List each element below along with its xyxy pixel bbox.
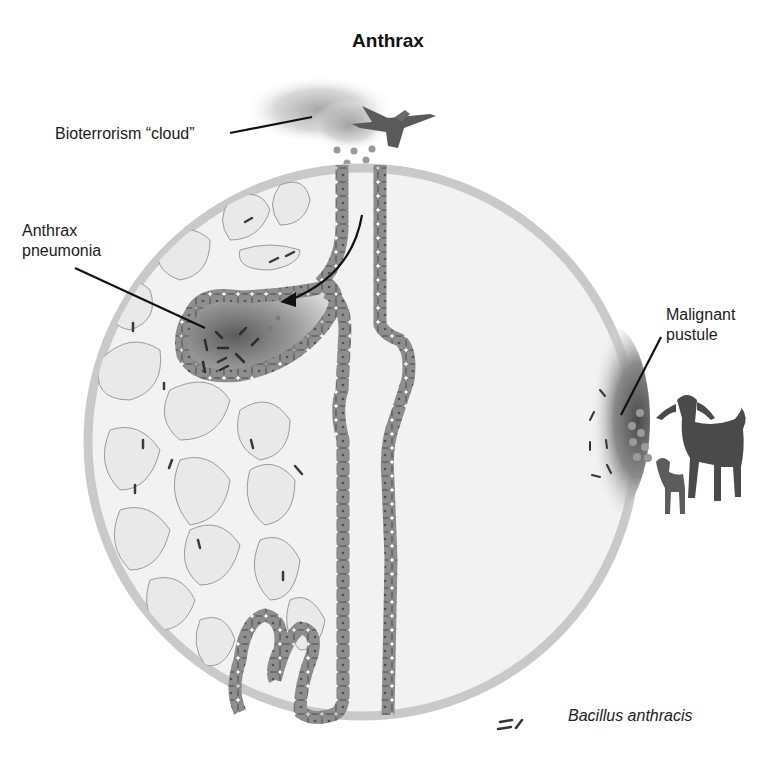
anthrax-illustration [0,0,776,759]
label-pneumonia-line1: Anthrax [22,221,142,241]
goat-icon [656,395,746,514]
label-pustule-line2: pustule [666,325,766,345]
label-bioterrorism-cloud: Bioterrorism “cloud” [55,124,195,144]
malignant-pustule [570,325,650,515]
legend-text: Bacillus anthracis [568,707,693,725]
label-malignant-pustule: Malignant pustule [666,305,766,345]
legend: Bacillus anthracis [538,707,693,725]
label-anthrax-pneumonia: Anthrax pneumonia [22,221,142,261]
label-pustule-line1: Malignant [666,305,766,325]
bacillus-legend-icon [498,720,522,729]
label-pneumonia-line2: pneumonia [22,241,142,261]
